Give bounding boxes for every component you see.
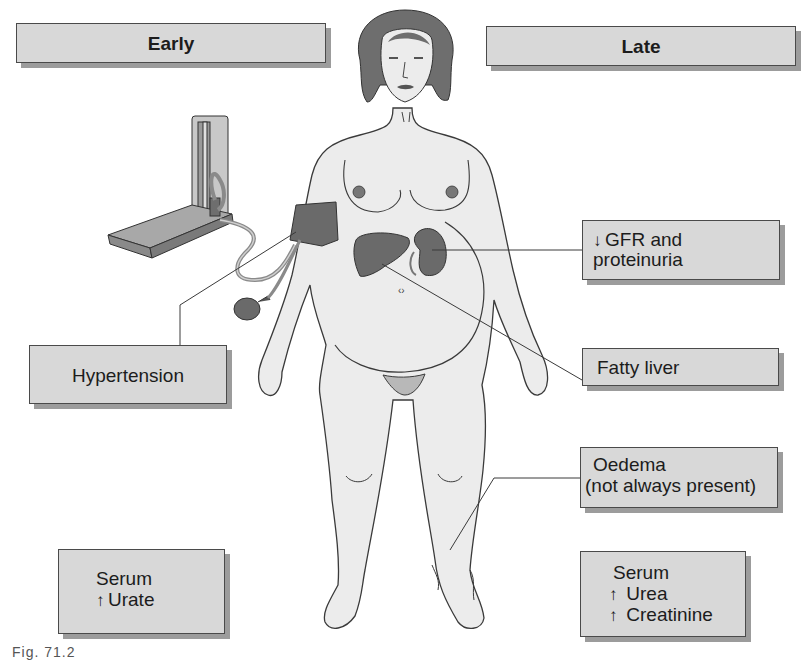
oedema-line-1: Oedema [593,454,666,475]
down-arrow-icon: ↓ [593,230,605,251]
serum-label-late: Serum [613,562,669,583]
figure-caption: Fig. 71.2 [12,644,75,660]
hypertension-box: Hypertension [29,345,227,404]
gfr-proteinuria-box: ↓GFR and proteinuria [582,220,780,280]
late-header-label: Late [487,36,795,57]
sphygmomanometer [108,116,233,258]
oedema-box: Oedema (not always present) [580,447,778,508]
late-header-box: Late [486,26,796,66]
serum-urea-creatinine-box: Serum ↑ Urea ↑ Creatinine [580,551,746,637]
early-header-label: Early [17,33,325,54]
serum-label-early: Serum [96,568,152,589]
body-figure [259,108,548,628]
up-arrow-icon: ↑ [96,590,108,611]
gfr-line-1: ↓GFR and [593,229,682,251]
head [358,10,453,102]
urea-line: ↑ Urea [609,583,667,605]
bp-cuff [290,202,338,246]
gfr-line-2: proteinuria [593,249,683,270]
gfr-text: GFR and [605,229,682,250]
up-arrow-icon: ↑ [609,584,621,605]
fatty-liver-label: Fatty liver [597,357,679,378]
urate-text: Urate [108,589,154,610]
bp-tubing [211,174,295,280]
urate-line: ↑Urate [96,589,154,611]
up-arrow-icon: ↑ [609,605,621,626]
creatinine-line: ↑ Creatinine [609,604,713,626]
hypertension-label: Hypertension [30,365,226,386]
oedema-line-2: (not always present) [585,475,756,496]
fatty-liver-box: Fatty liver [582,348,779,386]
bp-bulb [234,298,260,320]
urea-text: Urea [626,583,667,604]
navel: ‹› [398,285,405,296]
early-header-box: Early [16,23,326,63]
right-nipple [446,186,458,198]
creatinine-text: Creatinine [626,604,713,625]
serum-urate-box: Serum ↑Urate [58,549,225,634]
left-nipple [353,186,365,198]
